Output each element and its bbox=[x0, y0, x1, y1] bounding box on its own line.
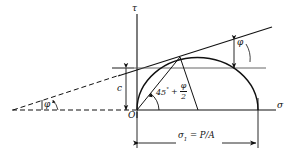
fraction-numerator: φ bbox=[180, 82, 188, 90]
phi-right-label: φ bbox=[237, 38, 243, 47]
plus-sign: + bbox=[171, 88, 178, 96]
tau-axis-label: τ bbox=[132, 4, 137, 13]
failure-envelope-dashed bbox=[13, 75, 120, 110]
phi-over-two-fraction: φ 2 bbox=[180, 82, 188, 101]
sigma1-equation: = P/A bbox=[187, 130, 214, 140]
mohr-circle-figure: τ σ O c φ φ 45° + φ 2 σ1 = P/A bbox=[0, 0, 293, 159]
degree-sign: ° bbox=[166, 86, 169, 92]
cohesion-label: c bbox=[117, 84, 122, 93]
sigma-axis-label: σ bbox=[277, 101, 283, 110]
sigma1-dimension-label: σ1 = P/A bbox=[178, 131, 215, 142]
angle-value: 45 bbox=[156, 87, 166, 96]
origin-label: O bbox=[128, 111, 135, 120]
angle-45-plus-phi-over-2-label: 45° + φ 2 bbox=[156, 82, 187, 101]
diagram-canvas bbox=[0, 0, 293, 159]
phi-left-label: φ bbox=[44, 100, 50, 109]
fraction-denominator: 2 bbox=[180, 93, 187, 101]
